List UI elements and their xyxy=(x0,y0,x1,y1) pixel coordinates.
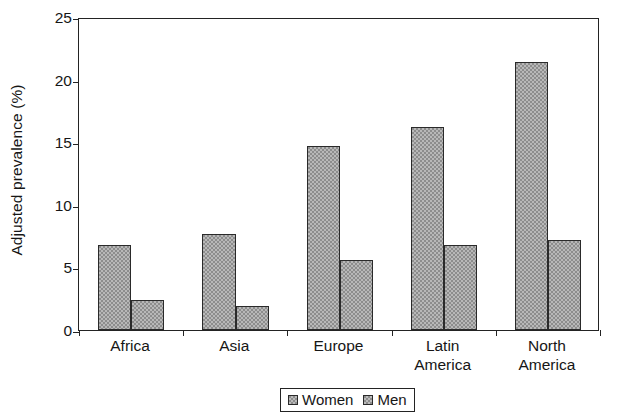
chart-legend: WomenMen xyxy=(280,388,415,412)
plot-area xyxy=(78,18,599,331)
x-axis-label-europe: Europe xyxy=(286,336,390,355)
legend-swatch-icon xyxy=(288,395,298,405)
x-axis-label-line: Asia xyxy=(182,336,286,355)
y-axis-tick-label: 5 xyxy=(36,259,72,277)
legend-label: Men xyxy=(377,391,406,408)
legend-entry-women: Women xyxy=(288,391,353,408)
bar-north-america-men xyxy=(548,240,581,330)
y-axis-tick-label: 0 xyxy=(36,322,72,340)
x-axis-label-line: America xyxy=(391,355,495,374)
x-axis-label-line: America xyxy=(495,355,599,374)
x-axis-label-line: Africa xyxy=(78,336,182,355)
y-axis-tick-label: 10 xyxy=(36,197,72,215)
x-axis-label-north-america: NorthAmerica xyxy=(495,336,599,374)
y-axis-title: Adjusted prevalence (%) xyxy=(0,0,34,340)
bar-chart-figure: Adjusted prevalence (%) 0510152025 Afric… xyxy=(0,0,625,418)
y-axis-tick-mark xyxy=(73,82,79,83)
x-axis-label-asia: Asia xyxy=(182,336,286,355)
y-axis-tick-label: 15 xyxy=(36,134,72,152)
y-axis-title-text: Adjusted prevalence (%) xyxy=(8,84,26,255)
x-axis-label-line: Europe xyxy=(286,336,390,355)
bar-africa-men xyxy=(131,300,164,330)
bar-europe-men xyxy=(340,260,373,330)
x-axis-tick-mark xyxy=(600,330,601,336)
y-axis-tick-mark xyxy=(73,144,79,145)
x-axis-label-line: Latin xyxy=(391,336,495,355)
y-axis-tick-labels: 0510152025 xyxy=(32,0,72,418)
y-axis-tick-label: 25 xyxy=(36,9,72,27)
legend-swatch-icon xyxy=(363,395,373,405)
legend-label: Women xyxy=(302,391,353,408)
bar-latin-america-women xyxy=(411,127,444,330)
x-axis-label-latin-america: LatinAmerica xyxy=(391,336,495,374)
bar-asia-men xyxy=(236,306,269,330)
bar-asia-women xyxy=(202,234,235,330)
legend-entry-men: Men xyxy=(363,391,406,408)
y-axis-tick-label: 20 xyxy=(36,72,72,90)
y-axis-tick-mark xyxy=(73,19,79,20)
x-axis-label-line: North xyxy=(495,336,599,355)
x-axis-label-africa: Africa xyxy=(78,336,182,355)
bar-north-america-women xyxy=(515,62,548,330)
y-axis-tick-mark xyxy=(73,207,79,208)
bar-latin-america-men xyxy=(444,245,477,330)
y-axis-tick-mark xyxy=(73,269,79,270)
bar-europe-women xyxy=(307,146,340,330)
bar-africa-women xyxy=(98,245,131,330)
